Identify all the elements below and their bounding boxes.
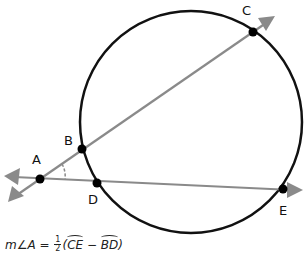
point-b bbox=[78, 145, 87, 154]
arrow-upper-right-icon bbox=[258, 16, 275, 31]
label-a: A bbox=[32, 152, 41, 167]
label-d: D bbox=[88, 192, 98, 207]
formula-minus: − bbox=[83, 238, 101, 252]
label-b: B bbox=[64, 133, 73, 148]
arrow-right-icon bbox=[287, 182, 303, 198]
secant-ade bbox=[14, 177, 292, 190]
fraction-denominator: 2 bbox=[55, 245, 60, 253]
formula-lhs: m∠A = bbox=[5, 238, 50, 252]
arc-bd: BD bbox=[101, 238, 118, 252]
point-d bbox=[93, 179, 102, 188]
arc-ce: CE bbox=[67, 238, 83, 252]
formula-close-paren: ) bbox=[118, 238, 123, 252]
point-e bbox=[279, 185, 288, 194]
label-e: E bbox=[279, 203, 287, 218]
point-c bbox=[249, 28, 258, 37]
formula: m∠A = 1 2 ( CE − BD ) bbox=[5, 236, 123, 253]
arrow-left-upper-icon bbox=[4, 168, 20, 185]
point-a bbox=[36, 175, 45, 184]
angle-mark bbox=[62, 164, 65, 180]
secant-abc bbox=[14, 23, 266, 197]
circle bbox=[80, 11, 302, 233]
fraction-half: 1 2 bbox=[54, 236, 61, 253]
label-c: C bbox=[242, 3, 251, 18]
arrow-left-lower-icon bbox=[8, 186, 24, 202]
diagram-canvas bbox=[0, 0, 308, 266]
